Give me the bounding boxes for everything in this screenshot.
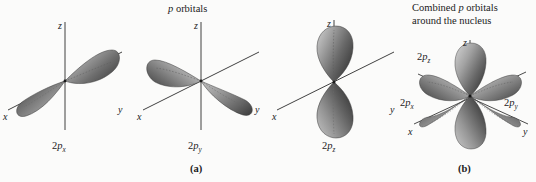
orbital-label-2px: 2px bbox=[52, 140, 66, 154]
lobe-2py-negative bbox=[147, 60, 201, 87]
axis-label-x-2px: x bbox=[3, 111, 7, 122]
orbital-diagram-2py: z x y bbox=[135, 12, 269, 142]
orbital-diagram-2px: z x y bbox=[0, 12, 134, 142]
lobe-2py-positive bbox=[201, 81, 252, 115]
orbital-label-combined-2pz: 2pz bbox=[417, 51, 430, 65]
panel-caption-a: (a) bbox=[190, 163, 202, 174]
p-orbitals-figure: p orbitals bbox=[0, 0, 536, 182]
axis-label-x-combined: x bbox=[408, 126, 412, 137]
axis-label-z-combined: z bbox=[463, 37, 467, 48]
orbital-label-combined-2px: 2px bbox=[400, 97, 414, 111]
combined-2pz-subscript: z bbox=[428, 57, 431, 65]
combined-title-post: orbitals bbox=[464, 2, 498, 13]
orbital-2pz-graphic bbox=[272, 12, 406, 142]
nucleus-2pz bbox=[333, 81, 336, 84]
axis-label-z-2pz: z bbox=[327, 18, 331, 29]
orbital-label-2py: 2py bbox=[188, 140, 202, 154]
axis-label-y-combined: y bbox=[523, 126, 527, 137]
orbital-label-2pz: 2pz bbox=[322, 140, 335, 154]
orbital-diagram-combined: z x y bbox=[404, 28, 536, 156]
lobe-2px-positive bbox=[65, 50, 120, 84]
combined-orbitals-title-line2: around the nucleus bbox=[412, 15, 491, 28]
nucleus-combined bbox=[469, 95, 472, 98]
orbital-label-2py-subscript: y bbox=[199, 146, 202, 154]
combined-title-pre: Combined bbox=[412, 2, 458, 13]
orbital-diagram-2pz: z x y bbox=[272, 12, 406, 142]
orbital-label-2px-subscript: x bbox=[63, 146, 66, 154]
orbital-2px-graphic bbox=[0, 12, 134, 142]
lobe-2pz-positive bbox=[317, 26, 353, 82]
axis-label-x-2pz: x bbox=[272, 111, 276, 122]
axis-label-y-2pz: y bbox=[390, 104, 394, 115]
orbital-label-combined-2py: 2py bbox=[504, 97, 518, 111]
combined-2px-subscript: x bbox=[411, 103, 414, 111]
nucleus-2px bbox=[64, 80, 67, 83]
nucleus-2py bbox=[200, 80, 203, 83]
lobe-2pz-negative bbox=[317, 82, 353, 138]
lobe-2px-negative bbox=[17, 81, 65, 117]
axis-label-z-2px: z bbox=[58, 20, 62, 31]
axis-label-y-2py: y bbox=[255, 104, 259, 115]
combined-orbitals-graphic bbox=[404, 28, 536, 156]
axis-label-x-2py: x bbox=[137, 111, 141, 122]
combined-orbitals-title-line1: Combined p orbitals bbox=[412, 2, 498, 15]
orbital-2py-graphic bbox=[135, 12, 269, 142]
combined-2py-subscript: y bbox=[515, 103, 518, 111]
axis-label-z-2py: z bbox=[194, 20, 198, 31]
panel-caption-b: (b) bbox=[458, 163, 471, 174]
axis-label-y-2px: y bbox=[118, 104, 122, 115]
orbital-label-2pz-subscript: z bbox=[333, 146, 336, 154]
